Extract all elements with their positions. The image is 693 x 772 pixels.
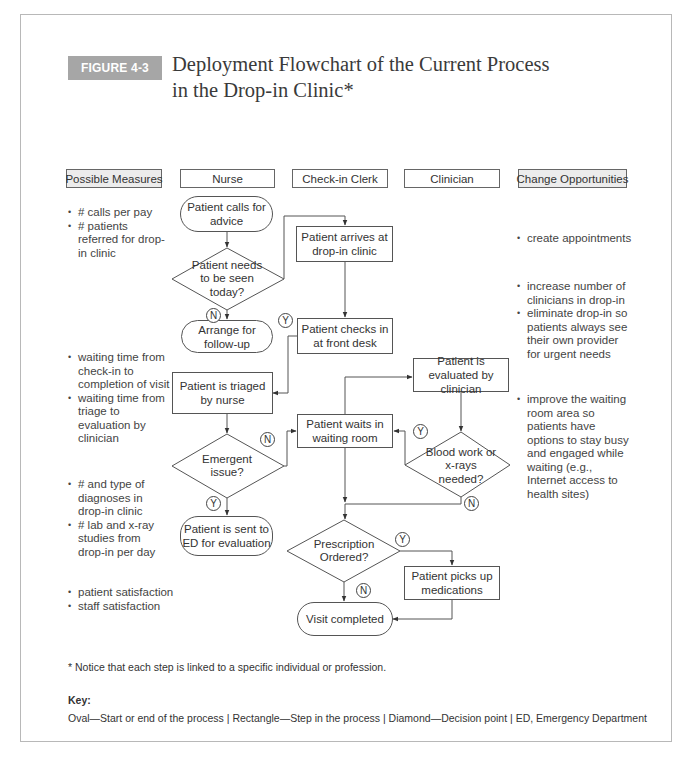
step-picks-up-medications: Patient picks up medications (404, 566, 500, 600)
no-marker: N (356, 583, 371, 598)
yes-marker: Y (413, 424, 428, 439)
decision-blood-work-xrays: Blood work or x-rays needed? (425, 446, 497, 486)
measure-item: # and type of diagnoses in drop-in clini… (68, 478, 158, 519)
yes-marker: Y (206, 496, 221, 511)
opportunities-group-2: increase number of clinicians in drop-in… (517, 280, 629, 361)
decision-emergent-issue: Emergent issue? (192, 451, 262, 481)
end-visit-completed: Visit completed (297, 602, 393, 636)
no-marker: N (260, 432, 275, 447)
no-marker: N (206, 308, 221, 323)
start-patient-calls: Patient calls for advice (180, 196, 273, 232)
end-arrange-follow-up: Arrange for follow-up (181, 320, 273, 353)
measure-item: waiting time from triage to evaluation b… (68, 392, 170, 446)
step-checks-in: Patient checks in at front desk (297, 318, 393, 354)
measure-item: # patients referred for drop-in clinic (68, 220, 168, 261)
opportunity-item: improve the waiting room area so patient… (517, 393, 629, 501)
footnote: * Notice that each step is linked to a s… (68, 661, 386, 673)
decision-prescription-ordered: Prescription Ordered? (306, 536, 382, 566)
measure-item: waiting time from check-in to completion… (68, 351, 170, 392)
yes-marker: Y (278, 313, 293, 328)
measure-item: staff satisfaction (68, 600, 178, 614)
measures-group-3: # and type of diagnoses in drop-in clini… (68, 478, 158, 559)
measure-item: # calls per pay (68, 206, 168, 220)
step-triaged-by-nurse: Patient is triaged by nurse (172, 372, 273, 414)
measure-item: # lab and x-ray studies from drop-in per… (68, 519, 158, 560)
opportunity-item: create appointments (517, 232, 642, 246)
measures-group-2: waiting time from check-in to completion… (68, 351, 170, 446)
decision-needs-seen-today: Patient needs to be seen today? (187, 259, 267, 299)
opportunities-group-3: improve the waiting room area so patient… (517, 393, 629, 501)
measures-group-1: # calls per pay # patients referred for … (68, 206, 168, 260)
key-title: Key: (68, 694, 91, 706)
step-evaluated-by-clinician: Patient is evaluated by clinician (413, 358, 509, 392)
step-patient-arrives: Patient arrives at drop-in clinic (296, 226, 393, 262)
step-waits-in-waiting-room: Patient waits in waiting room (297, 414, 393, 448)
key-text: Oval—Start or end of the process | Recta… (68, 712, 647, 724)
opportunity-item: eliminate drop-in so patients always see… (517, 307, 629, 361)
opportunity-item: increase number of clinicians in drop-in (517, 280, 629, 307)
end-sent-to-ed: Patient is sent to ED for evaluation (180, 516, 273, 556)
no-marker: N (464, 496, 479, 511)
yes-marker: Y (395, 532, 410, 547)
measure-item: patient satisfaction (68, 586, 178, 600)
opportunities-group-1: create appointments (517, 232, 642, 246)
measures-group-4: patient satisfaction staff satisfaction (68, 586, 178, 613)
